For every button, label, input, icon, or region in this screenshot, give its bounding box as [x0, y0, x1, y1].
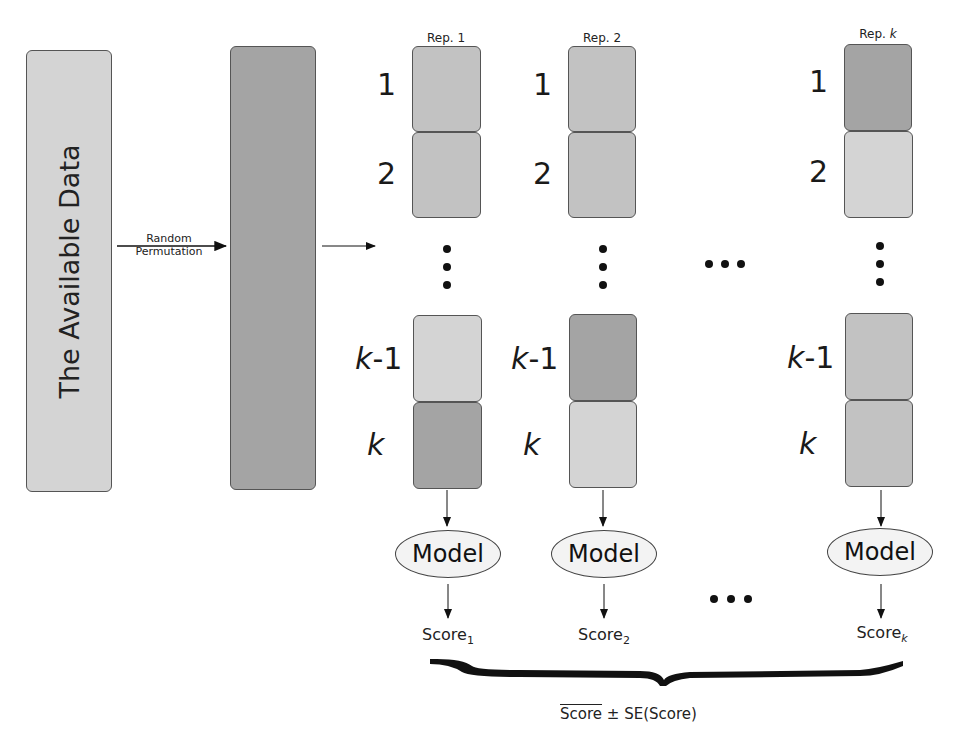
- repk-model: Model: [827, 528, 933, 576]
- rep2-fold1-number: 1: [533, 67, 552, 102]
- repk-foldk1-number: k-1: [787, 340, 834, 375]
- standard-error: SE(Score): [624, 705, 697, 723]
- rep1-fold-1: [412, 46, 481, 132]
- plus-minus: ±: [607, 705, 620, 723]
- repk-fold-2: [844, 131, 913, 218]
- rep2-vertical-ellipsis-dot: [599, 281, 607, 289]
- reps-horizontal-ellipsis-dot: [721, 260, 729, 268]
- rep1-vertical-ellipsis-dot: [443, 281, 451, 289]
- rep2-fold-2: [568, 132, 636, 218]
- rep2-fold-1: [568, 46, 636, 132]
- scores-horizontal-ellipsis-dot: [710, 595, 718, 603]
- rep1-vertical-ellipsis-dot: [443, 245, 451, 253]
- rep1-fold-2: [412, 132, 481, 218]
- repk-fold-1-test: [844, 44, 912, 131]
- rep2-fold-k: [569, 401, 637, 488]
- repk-vertical-ellipsis-dot: [876, 260, 884, 268]
- rep-k-label: Rep. k: [838, 27, 918, 41]
- rep1-score: Score1: [398, 625, 498, 647]
- reps-horizontal-ellipsis-dot: [705, 260, 713, 268]
- curly-brace: [430, 659, 903, 686]
- rep-2-label: Rep. 2: [562, 31, 642, 45]
- rep2-fold-k-minus-1-test: [569, 314, 637, 401]
- rep1-model: Model: [395, 530, 501, 578]
- repk-fold2-number: 2: [809, 154, 828, 189]
- rep1-fold-k-minus-1: [413, 315, 482, 402]
- repk-fold-k: [845, 400, 913, 487]
- rep1-fold-k-test: [413, 402, 482, 489]
- repk-score: Scorek: [832, 623, 932, 645]
- rep1-foldk-number: k: [367, 427, 384, 462]
- repk-foldk-number: k: [799, 426, 816, 461]
- scores-horizontal-ellipsis-dot: [744, 595, 752, 603]
- rep1-vertical-ellipsis-dot: [443, 263, 451, 271]
- repk-vertical-ellipsis-dot: [876, 242, 884, 250]
- repk-fold-k-minus-1: [845, 313, 913, 400]
- rep2-score: Score2: [554, 625, 654, 647]
- rep2-vertical-ellipsis-dot: [599, 263, 607, 271]
- rep-1-label: Rep. 1: [406, 31, 486, 45]
- rep1-foldk1-number: k-1: [355, 341, 402, 376]
- summary-formula: Score ± SE(Score): [560, 705, 697, 723]
- rep2-fold2-number: 2: [533, 156, 552, 191]
- rep2-model: Model: [551, 530, 657, 578]
- repk-vertical-ellipsis-dot: [876, 278, 884, 286]
- rep1-fold2-number: 2: [377, 156, 396, 191]
- mean-score: Score: [560, 705, 602, 723]
- reps-horizontal-ellipsis-dot: [737, 260, 745, 268]
- rep2-vertical-ellipsis-dot: [599, 245, 607, 253]
- rep2-foldk-number: k: [523, 427, 540, 462]
- repk-fold1-number: 1: [809, 64, 828, 99]
- scores-horizontal-ellipsis-dot: [727, 595, 735, 603]
- rep2-foldk1-number: k-1: [511, 341, 558, 376]
- rep1-fold1-number: 1: [377, 67, 396, 102]
